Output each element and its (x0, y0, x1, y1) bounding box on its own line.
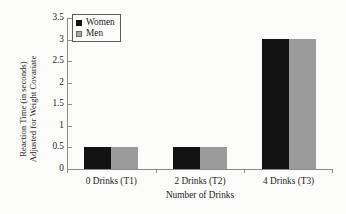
legend-label-men: Men (86, 28, 103, 39)
y-tick: 1 (67, 126, 72, 127)
y-tick: 1.5 (67, 104, 72, 105)
y-tick-label: 3.5 (52, 12, 64, 23)
bar-men-1 (111, 147, 138, 169)
x-category-label: 2 Drinks (T2) (156, 176, 245, 187)
legend-label-women: Women (86, 17, 115, 28)
y-tick-mark (68, 104, 72, 105)
y-tick-label: 2.5 (52, 55, 64, 66)
x-tick-mark (332, 169, 333, 173)
y-tick: 2 (67, 83, 72, 84)
x-axis-line (67, 169, 333, 170)
y-tick-mark (68, 126, 72, 127)
x-tick-mark (67, 169, 68, 173)
y-axis-title-line-2: Adjusted for Weight Covariate (28, 56, 38, 163)
y-tick-label: 1.5 (52, 98, 64, 109)
legend-swatch-women-icon (76, 20, 82, 26)
legend-swatch-men-icon (76, 31, 82, 37)
y-tick-mark (68, 83, 72, 84)
plot-area: 00.511.522.533.5 0 Drinks (T1)2 Drinks (… (67, 18, 333, 170)
y-tick-label: 1 (59, 120, 64, 131)
y-axis-title-line-1: Reaction Time (in seconds) (18, 61, 28, 156)
y-tick: 0.5 (67, 147, 72, 148)
y-tick-label: 0 (59, 163, 64, 174)
x-tick-mark (244, 169, 245, 173)
y-tick-mark (68, 169, 72, 170)
x-category-label: 4 Drinks (T3) (244, 176, 333, 187)
bar-men-2 (200, 147, 227, 169)
x-tick-mark (156, 169, 157, 173)
x-axis-title: Number of Drinks (67, 190, 333, 201)
legend: Women Men (72, 14, 121, 42)
x-category-label: 0 Drinks (T1) (67, 176, 156, 187)
bar-men-3 (289, 39, 316, 169)
bar-chart-figure: Reaction Time (in seconds) Adjusted for … (0, 0, 346, 214)
y-tick-label: 3 (59, 34, 64, 45)
bar-women-1 (84, 147, 111, 169)
y-tick-mark (68, 61, 72, 62)
bar-women-2 (173, 147, 200, 169)
legend-item-women: Women (76, 17, 115, 28)
y-tick-label: 2 (59, 77, 64, 88)
y-tick-mark (68, 147, 72, 148)
bar-women-3 (262, 39, 289, 169)
y-tick: 2.5 (67, 61, 72, 62)
y-axis-title: Reaction Time (in seconds) Adjusted for … (13, 29, 43, 189)
y-tick-label: 0.5 (52, 141, 64, 152)
legend-item-men: Men (76, 28, 115, 39)
